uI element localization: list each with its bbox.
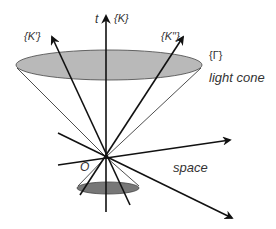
frame-K-label: {K} bbox=[114, 13, 129, 24]
space-axis-2 bbox=[58, 133, 232, 218]
time-axis-label: t bbox=[95, 13, 98, 25]
gamma-label: {Γ} bbox=[209, 50, 222, 61]
cone-edge-left bbox=[17, 68, 106, 157]
upper-cone-ellipse bbox=[16, 50, 202, 80]
frame-K-prime-label: {K′} bbox=[24, 31, 41, 42]
origin-label: O bbox=[80, 161, 89, 173]
diagram-canvas bbox=[0, 0, 276, 229]
origin-point bbox=[104, 155, 108, 159]
space-label: space bbox=[173, 161, 208, 174]
light-cone-label: light cone bbox=[209, 71, 265, 84]
frame-K-double-prime-label: {K′′} bbox=[161, 31, 180, 42]
light-cone-diagram: t {K} {K′} {K′′} {Γ} light cone O space bbox=[0, 0, 276, 229]
lower-cone-ellipse bbox=[77, 182, 139, 194]
